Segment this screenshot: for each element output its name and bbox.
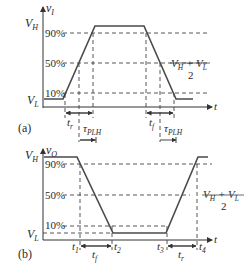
panel-a-tr-label: tr bbox=[67, 116, 73, 131]
panel-a-10-label: 10% bbox=[45, 87, 65, 99]
panel-b-tr-label: tr bbox=[178, 248, 184, 263]
panel-b-signal-label: vO bbox=[46, 143, 57, 159]
panel-b-t1-label: t1 bbox=[72, 240, 79, 255]
panel-a-tau1-label: τPLH bbox=[83, 122, 102, 137]
panel-a-tf-label: tf bbox=[149, 116, 155, 131]
panel-a-90-label: 90% bbox=[45, 27, 65, 39]
panel-b-10-label: 10% bbox=[45, 219, 65, 231]
panel-a-vh-label: VH bbox=[25, 16, 39, 32]
panel-a-vl-label: VL bbox=[27, 93, 39, 109]
panel-b-label: (b) bbox=[18, 247, 32, 261]
panel-b-50-label: 50% bbox=[45, 189, 65, 201]
panel-a-tau1-marker bbox=[80, 137, 96, 143]
timing-diagram: VH vI 90% 50% 10% VL t VH + VL 2 tr tf τ… bbox=[0, 0, 251, 274]
panel-a-t-axis-label: t bbox=[214, 100, 218, 112]
panel-a-tau2-marker bbox=[160, 137, 176, 143]
panel-b-midpoint-denominator: 2 bbox=[221, 200, 227, 212]
panel-b-t2-label: t2 bbox=[114, 240, 121, 255]
panel-b-tf-label: tf bbox=[92, 248, 98, 263]
panel-b-90-label: 90% bbox=[45, 158, 65, 170]
panel-a-50-label: 50% bbox=[45, 57, 65, 69]
panel-a-tau2-label: τPLH bbox=[164, 122, 183, 137]
panel-a-midpoint-denominator: 2 bbox=[188, 69, 194, 81]
panel-b-reference-lines bbox=[43, 164, 212, 250]
panel-a: VH vI 90% 50% 10% VL t VH + VL 2 tr tf τ… bbox=[18, 1, 218, 143]
panel-b-t3-label: t3 bbox=[157, 240, 164, 255]
panel-a-signal-label: vI bbox=[46, 1, 54, 17]
panel-b-vl-label: VL bbox=[27, 227, 39, 243]
panel-b-t-axis-label: t bbox=[214, 233, 218, 245]
panel-b-vh-label: VH bbox=[25, 148, 39, 164]
panel-b-t4-label: t4 bbox=[199, 240, 206, 255]
panel-a-label: (a) bbox=[18, 121, 31, 135]
panel-b: VH vO 90% 50% 10% VL t VH + VL 2 t1 t2 t… bbox=[18, 143, 244, 263]
